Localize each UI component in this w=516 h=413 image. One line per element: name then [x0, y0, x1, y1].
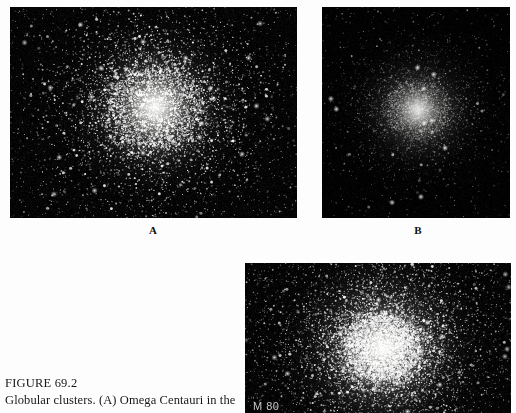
diffuse-cluster-starfield — [322, 7, 510, 218]
figure-number: FIGURE 69.2 — [5, 375, 240, 391]
panel-a-image — [10, 7, 297, 218]
caption-text: Globular clusters. (A) Omega Centauri in… — [5, 392, 240, 408]
panel-b-label: B — [408, 225, 428, 236]
panel-c-image: M 80 — [245, 263, 511, 413]
figure-caption: FIGURE 69.2 Globular clusters. (A) Omega… — [5, 375, 240, 408]
panel-b-image — [322, 7, 510, 218]
figure-container: A B M 80 FIGURE 69.2 Globular clusters. … — [0, 0, 516, 413]
m80-starfield — [245, 263, 511, 413]
panel-a-label: A — [143, 225, 163, 236]
omega-centauri-starfield — [10, 7, 297, 218]
